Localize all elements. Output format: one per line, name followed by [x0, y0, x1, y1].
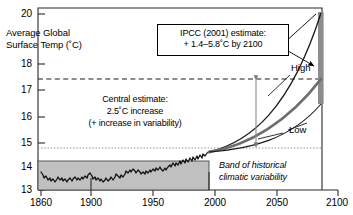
- central-estimate-line3: (+ increase in variability): [60, 118, 210, 128]
- high-label-leader: [268, 75, 290, 96]
- y-axis-label-line2: Surface Temp (˚C): [6, 40, 82, 51]
- high-curve-label: High: [291, 63, 311, 74]
- x-tick-1950: 1950: [133, 197, 173, 208]
- band-annotation-line1: Band of historical: [219, 160, 286, 170]
- x-axis-ticks: [41, 190, 338, 196]
- y-tick-14: 14: [10, 161, 32, 172]
- y-tick-17: 17: [10, 84, 32, 95]
- y-tick-13: 13: [10, 184, 32, 195]
- y-tick-18: 18: [10, 58, 32, 69]
- band-annotation-line2: climatic variability: [219, 172, 287, 182]
- ipcc-callout-line2: + 1.4–5.8˚C by 2100: [163, 39, 283, 50]
- ipcc-range-bar: [318, 12, 324, 104]
- x-tick-2100: 2100: [317, 197, 353, 208]
- y-tick-20: 20: [10, 8, 32, 19]
- x-tick-1860: 1860: [21, 197, 61, 208]
- low-curve-label: Low: [289, 125, 306, 136]
- ipcc-estimate-callout: IPCC (2001) estimate: + 1.4–5.8˚C by 210…: [157, 24, 289, 56]
- central-projection-curve: [209, 79, 321, 152]
- y-tick-15: 15: [10, 137, 32, 148]
- x-tick-1900: 1900: [71, 197, 111, 208]
- central-estimate-line1: Central estimate:: [60, 94, 210, 104]
- y-axis-label-line1: Average Global: [6, 28, 70, 39]
- x-tick-2050: 2050: [257, 197, 297, 208]
- ipcc-callout-line1: IPCC (2001) estimate:: [163, 28, 283, 39]
- central-estimate-line2: 2.5˚C increase: [60, 106, 210, 116]
- y-tick-16: 16: [10, 111, 32, 122]
- x-tick-2000: 2000: [195, 197, 235, 208]
